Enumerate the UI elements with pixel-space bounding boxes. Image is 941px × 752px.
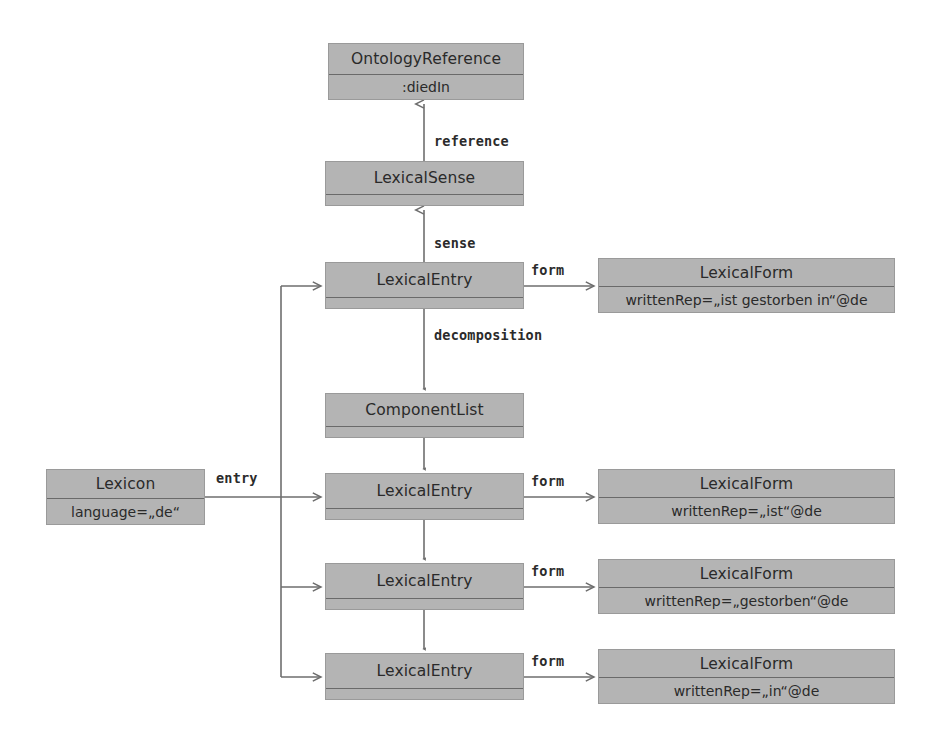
edge-label-decomposition: decomposition <box>434 327 542 343</box>
node-title: LexicalForm <box>599 470 894 498</box>
node-title: LexicalSense <box>326 162 523 195</box>
node-title: LexicalForm <box>599 650 894 678</box>
node-title: ComponentList <box>326 394 523 427</box>
edge-label-reference: reference <box>434 133 509 149</box>
node-attribute <box>326 689 523 700</box>
node-title: Lexicon <box>47 470 204 499</box>
edge-label-form-3: form <box>531 563 564 579</box>
node-lexical-entry-2[interactable]: LexicalEntry <box>325 473 524 520</box>
diagram-canvas: reference sense form decomposition entry… <box>0 0 941 752</box>
node-lexical-form-2[interactable]: LexicalForm writtenRep=„ist“@de <box>598 469 895 524</box>
node-title: LexicalEntry <box>326 564 523 599</box>
node-title: LexicalForm <box>599 560 894 588</box>
node-attribute <box>326 298 523 309</box>
node-attribute: writtenRep=„gestorben“@de <box>599 588 894 613</box>
node-attribute: language=„de“ <box>47 499 204 524</box>
node-attribute <box>326 509 523 520</box>
node-title: LexicalEntry <box>326 263 523 298</box>
node-lexicon[interactable]: Lexicon language=„de“ <box>46 469 205 525</box>
node-title: OntologyReference <box>329 44 523 75</box>
node-title: LexicalForm <box>599 259 894 287</box>
node-attribute: writtenRep=„ist“@de <box>599 498 894 523</box>
node-ontology-reference[interactable]: OntologyReference :diedIn <box>328 43 524 100</box>
edge-label-entry: entry <box>216 470 258 486</box>
node-lexical-sense[interactable]: LexicalSense <box>325 161 524 206</box>
edge-layer <box>0 0 941 752</box>
node-lexical-form-3[interactable]: LexicalForm writtenRep=„gestorben“@de <box>598 559 895 614</box>
node-component-list[interactable]: ComponentList <box>325 393 524 438</box>
node-attribute: writtenRep=„ist gestorben in“@de <box>599 287 894 312</box>
node-attribute: :diedIn <box>329 75 523 99</box>
edge-label-form-2: form <box>531 473 564 489</box>
node-title: LexicalEntry <box>326 654 523 689</box>
node-attribute <box>326 427 523 438</box>
edge-label-sense: sense <box>434 235 476 251</box>
node-lexical-form-4[interactable]: LexicalForm writtenRep=„in“@de <box>598 649 895 704</box>
node-attribute <box>326 195 523 206</box>
edge-label-form-1: form <box>531 262 564 278</box>
edge-label-form-4: form <box>531 653 564 669</box>
node-lexical-entry-3[interactable]: LexicalEntry <box>325 563 524 610</box>
node-lexical-entry-1[interactable]: LexicalEntry <box>325 262 524 309</box>
node-lexical-entry-4[interactable]: LexicalEntry <box>325 653 524 700</box>
node-lexical-form-1[interactable]: LexicalForm writtenRep=„ist gestorben in… <box>598 258 895 313</box>
node-attribute <box>326 599 523 610</box>
node-title: LexicalEntry <box>326 474 523 509</box>
node-attribute: writtenRep=„in“@de <box>599 678 894 703</box>
